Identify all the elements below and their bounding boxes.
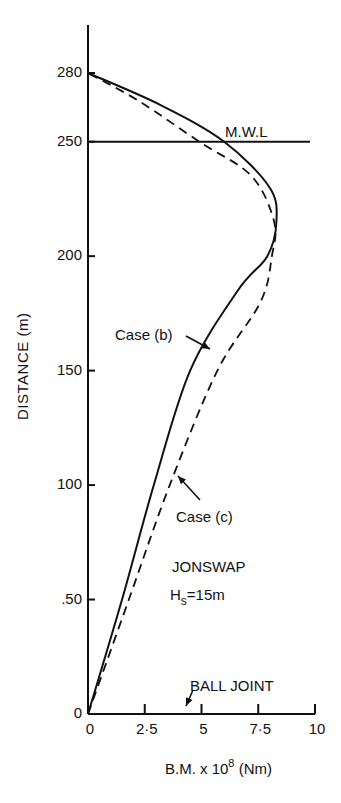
y-tick-label: 250 <box>42 132 82 149</box>
jonswap-label: JONSWAP <box>172 558 246 575</box>
x-tick-label: 0 <box>70 720 110 737</box>
hs-label: Hs=15m <box>170 586 225 608</box>
case-c-label: Case (c) <box>176 508 233 525</box>
hs-value: =15m <box>187 586 225 603</box>
series-group <box>88 73 277 714</box>
chart-canvas <box>0 0 341 803</box>
y-tick-label: 100 <box>42 475 82 492</box>
y-axis-label: DISTANCE (m) <box>14 313 31 420</box>
y-tick-label: 150 <box>42 361 82 378</box>
x-tick-label: 2·5 <box>127 720 167 737</box>
x-axis-label-suffix: (Nm) <box>234 760 272 777</box>
y-tick-label: .50 <box>42 590 82 607</box>
y-tick-label: 0 <box>42 704 82 721</box>
x-tick-label: 10 <box>297 720 337 737</box>
axes <box>88 25 315 714</box>
x-axis-label-prefix: B.M. x 10 <box>165 760 228 777</box>
x-tick-label: 5 <box>184 720 224 737</box>
case-b-label: Case (b) <box>115 326 173 343</box>
hs-symbol: H <box>170 586 181 603</box>
y-tick-label: 280 <box>42 63 82 80</box>
x-axis-label: B.M. x 108 (Nm) <box>165 757 272 777</box>
y-tick-label: 200 <box>42 246 82 263</box>
ball-joint-label: BALL JOINT <box>190 677 274 694</box>
case-b-curve <box>88 73 277 714</box>
x-tick-label: 7·5 <box>240 720 280 737</box>
mwl-label: M.W.L <box>225 123 268 140</box>
